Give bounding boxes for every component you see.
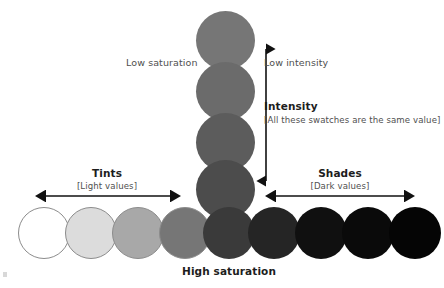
value-row-swatch-2 (65, 207, 117, 259)
low-saturation-label: Low saturation (126, 57, 198, 68)
value-row-swatch-3 (112, 207, 164, 259)
tints-note: [Light values] (77, 181, 137, 191)
low-intensity-label: Low intensity (264, 57, 328, 68)
value-row-swatch-8 (342, 207, 394, 259)
value-row-swatch-6 (248, 207, 300, 259)
tints-heading: Tints (92, 167, 122, 179)
intensity-note: [All these swatches are the same value] (264, 115, 440, 125)
high-saturation-label: High saturation (182, 265, 276, 277)
value-row-swatch-9 (389, 207, 441, 259)
value-row-swatch-7 (295, 207, 347, 259)
corner-mark (3, 272, 7, 277)
saturation-intensity-diagram: Low saturation Low intensity Intensity [… (0, 0, 444, 288)
shades-note: [Dark values] (310, 181, 369, 191)
intensity-heading: Intensity (264, 100, 318, 112)
value-row-swatch-1 (18, 207, 70, 259)
shades-heading: Shades (318, 167, 362, 179)
